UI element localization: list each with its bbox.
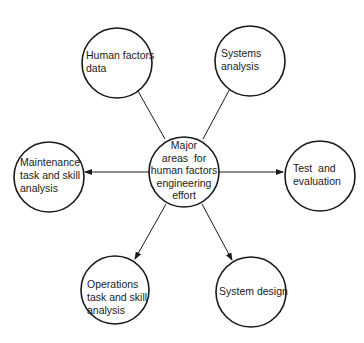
node-label-system-design: System design bbox=[219, 285, 288, 298]
center-label-line: human factors bbox=[149, 164, 219, 177]
center-node-label: Majorareas forhuman factorsengineeringef… bbox=[149, 139, 219, 202]
node-label-line: analysis bbox=[221, 60, 261, 73]
node-label-line: Human factors bbox=[86, 49, 154, 62]
arrow-systems-analysis bbox=[203, 83, 233, 139]
node-label-line: System design bbox=[219, 285, 288, 298]
arrow-human-factors-data bbox=[134, 84, 165, 139]
node-label-line: data bbox=[86, 62, 154, 75]
node-label-line: analysis bbox=[87, 304, 147, 317]
node-label-maintenance-task-skill-analysis: Maintenancetask and skillanalysis bbox=[20, 156, 80, 195]
arrow-operations-task-skill-analysis bbox=[135, 204, 166, 259]
node-label-line: evaluation bbox=[293, 175, 341, 188]
node-label-line: task and skill bbox=[87, 291, 147, 304]
center-label-line: effort bbox=[149, 189, 219, 202]
node-label-test-and-evaluation: Test andevaluation bbox=[293, 162, 341, 188]
node-label-line: Test and bbox=[293, 162, 341, 175]
node-label-human-factors-data: Human factorsdata bbox=[86, 49, 154, 75]
node-label-line: analysis bbox=[20, 182, 80, 195]
node-label-line: Systems bbox=[221, 47, 261, 60]
node-label-systems-analysis: Systemsanalysis bbox=[221, 47, 261, 73]
center-label-line: areas for bbox=[149, 152, 219, 165]
node-label-line: Operations bbox=[87, 278, 147, 291]
arrow-system-design bbox=[202, 204, 232, 260]
center-label-line: engineering bbox=[149, 177, 219, 190]
node-label-operations-task-skill-analysis: Operationstask and skillanalysis bbox=[87, 278, 147, 317]
center-label-line: Major bbox=[149, 139, 219, 152]
node-label-line: task and skill bbox=[20, 169, 80, 182]
node-label-line: Maintenance bbox=[20, 156, 80, 169]
